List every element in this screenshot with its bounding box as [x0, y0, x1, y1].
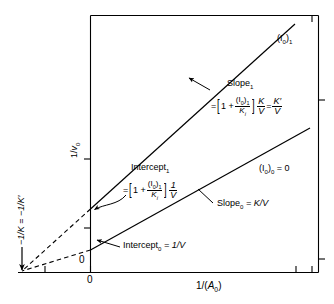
slope0-leader-line — [198, 189, 213, 203]
series1-label-sub2: 1 — [289, 38, 292, 45]
intercept0-leader-line — [97, 240, 120, 247]
x-intercept-label-eq: = — [16, 216, 26, 226]
y-axis-title: 1/v0 — [70, 143, 81, 158]
x-axis-title: 1/(A0) — [196, 281, 221, 293]
intercept1-leader-curve — [95, 195, 127, 210]
series0-label-tail: = 0 — [274, 163, 289, 173]
intercept1-ratio-num-sub2: 1 — [158, 184, 161, 190]
slope0-name: Slope — [217, 198, 240, 208]
slope1-ratio-fraction: (I0)1Ki — [235, 96, 251, 117]
lineweaver-burk-plot-figure: (I0)1 Slope1 =[1 +(I0)1Ki]KV=K′V Interce… — [0, 0, 334, 304]
slope1-one-plus: 1 + — [221, 102, 234, 111]
slope1-bracket-open: [ — [217, 101, 220, 112]
intercept0-name: Intercept — [123, 240, 158, 250]
intercept0-callout: Intercept0 = 1/V — [123, 241, 185, 252]
intercept1-onev-den: V — [169, 191, 177, 200]
slope0-rest: = K/V — [243, 198, 268, 208]
intercept1-ratio-den-sub: i — [157, 195, 158, 201]
intercept1-bracket-open: [ — [129, 185, 132, 196]
intercept1-onev-fraction: 1V — [169, 181, 177, 200]
slope1-kprime-fraction: K′V — [272, 97, 282, 116]
slope1-title-sub: 1 — [250, 83, 253, 90]
y-axis-title-var: v — [69, 146, 79, 151]
intercept1-title-sub: 1 — [166, 167, 169, 174]
slope1-ratio-den-sub: i — [245, 111, 246, 117]
series0-label: (I0)0 = 0 — [259, 164, 290, 175]
x-intercept-label: −1/K = −1/K′ — [17, 196, 26, 245]
plot-canvas — [0, 0, 334, 304]
intercept1-bracket-close: ] — [164, 185, 167, 196]
x-axis-origin-label: 0 — [87, 275, 93, 286]
slope1-title: Slope1 — [227, 79, 253, 90]
intercept1-eq: = — [123, 186, 128, 195]
series1-label: (I0)1 — [277, 34, 292, 45]
intercept1-title: Intercept1 — [131, 163, 169, 174]
slope1-leader-line — [189, 78, 210, 90]
intercept1-one-plus: 1 + — [133, 186, 146, 195]
intercept0-rest: = 1/V — [161, 240, 185, 250]
slope1-kv-den: V — [257, 107, 265, 116]
y-axis-origin-label: 0 — [79, 255, 85, 266]
intercept1-ratio-den: Ki — [147, 191, 163, 201]
slope1-ratio-den: Ki — [235, 107, 251, 117]
slope1-title-text: Slope — [227, 78, 250, 88]
slope1-ratio-num-sub2: 1 — [246, 100, 249, 106]
x-axis-title-main: 1/( — [196, 280, 208, 291]
x-intercept-label-second: −1/K′ — [16, 196, 26, 216]
slope1-eq2: = — [266, 102, 271, 111]
intercept1-title-text: Intercept — [131, 162, 166, 172]
slope0-callout: Slope0 = K/V — [217, 199, 268, 210]
slope1-kv-fraction: KV — [257, 97, 265, 116]
axis-ticks — [45, 16, 325, 273]
x-intercept-label-first: −1/K — [16, 226, 26, 245]
intercept1-ratio-fraction: (I0)1Ki — [147, 180, 163, 201]
slope1-bracket-close: ] — [252, 101, 255, 112]
y-axis-title-main: 1/ — [69, 150, 79, 158]
slope1-formula: =[1 +(I0)1Ki]KV=K′V — [211, 96, 283, 117]
plot-frame — [18, 16, 319, 273]
slope1-eq: = — [211, 102, 216, 111]
x-axis-title-close: ) — [218, 280, 221, 291]
y-axis-title-sub: 0 — [74, 143, 81, 146]
intercept1-formula: =[1 +(I0)1Ki]1V — [123, 180, 178, 201]
slope1-kprime-den: V — [272, 107, 282, 116]
